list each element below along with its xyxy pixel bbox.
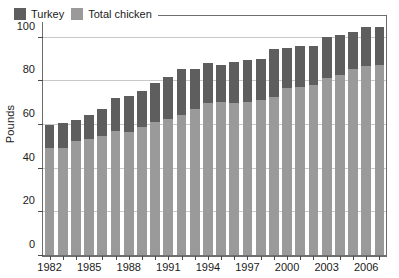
x-axis-tick xyxy=(208,256,209,260)
x-axis-label: 2006 xyxy=(354,261,378,273)
bar-2001 xyxy=(295,16,305,256)
bar-2007 xyxy=(375,16,385,256)
legend-item-turkey: Turkey xyxy=(14,8,64,20)
legend-item-total-chicken: Total chicken xyxy=(71,8,152,20)
bar-segment-turkey xyxy=(190,69,200,108)
bar-1994 xyxy=(203,16,213,256)
bar-segment-turkey xyxy=(375,27,385,65)
bar-segment-turkey xyxy=(361,27,371,66)
x-axis-tick xyxy=(182,256,183,260)
x-axis-tick xyxy=(234,256,235,260)
bar-segment-total-chicken xyxy=(111,131,121,256)
bar-segment-turkey xyxy=(137,91,147,128)
x-axis-tick xyxy=(221,256,222,260)
bar-segment-turkey xyxy=(322,37,332,78)
bar-1990 xyxy=(150,16,160,256)
x-axis-tick xyxy=(76,256,77,260)
bar-segment-total-chicken xyxy=(375,65,385,256)
bar-1988 xyxy=(124,16,134,256)
bar-segment-turkey xyxy=(243,60,253,102)
bar-segment-turkey xyxy=(45,125,55,148)
y-axis-tick xyxy=(38,37,43,38)
bar-segment-turkey xyxy=(97,109,107,136)
bar-segment-total-chicken xyxy=(361,66,371,256)
x-axis-line xyxy=(43,255,386,256)
bar-segment-total-chicken xyxy=(348,69,358,256)
legend-swatch-total-chicken xyxy=(71,8,83,20)
chart-legend: Turkey Total chicken xyxy=(12,6,158,22)
x-axis-label: 1997 xyxy=(235,261,259,273)
y-axis-label: 60 xyxy=(23,107,35,119)
y-axis-title-label: Pounds xyxy=(4,94,16,154)
y-axis-tick xyxy=(38,211,43,212)
y-axis-label: 0 xyxy=(29,238,35,250)
bar-segment-total-chicken xyxy=(190,109,200,256)
bar-segment-total-chicken xyxy=(216,102,226,256)
bar-segment-total-chicken xyxy=(309,85,319,256)
bar-2004 xyxy=(335,16,345,256)
bar-1989 xyxy=(137,16,147,256)
x-axis-tick xyxy=(300,256,301,260)
y-axis-label: 40 xyxy=(23,151,35,163)
bar-1985 xyxy=(84,16,94,256)
bar-2000 xyxy=(282,16,292,256)
bar-1992 xyxy=(177,16,187,256)
bar-1982 xyxy=(45,16,55,256)
x-axis-tick xyxy=(247,256,248,260)
bar-segment-turkey xyxy=(216,65,226,102)
bar-segment-total-chicken xyxy=(150,122,160,256)
x-axis-tick xyxy=(261,256,262,260)
x-axis-tick xyxy=(313,256,314,260)
bar-segment-total-chicken xyxy=(269,97,279,256)
legend-swatch-turkey xyxy=(14,8,26,20)
bar-segment-total-chicken xyxy=(335,75,345,256)
bar-segment-total-chicken xyxy=(256,100,266,256)
bar-segment-turkey xyxy=(269,49,279,97)
x-axis-tick xyxy=(327,256,328,260)
legend-label-total-chicken: Total chicken xyxy=(88,8,152,20)
bar-1986 xyxy=(97,16,107,256)
x-axis-label: 1991 xyxy=(156,261,180,273)
bar-segment-turkey xyxy=(295,46,305,87)
x-axis-label: 1988 xyxy=(117,261,141,273)
bar-segment-total-chicken xyxy=(124,132,134,256)
bar-segment-turkey xyxy=(58,123,68,148)
x-axis-tick xyxy=(142,256,143,260)
x-axis-label: 1982 xyxy=(37,261,61,273)
y-axis-tick xyxy=(38,124,43,125)
bar-segment-total-chicken xyxy=(229,103,239,256)
bar-segment-total-chicken xyxy=(243,102,253,256)
bar-group xyxy=(43,16,386,256)
x-axis-tick xyxy=(102,256,103,260)
bar-segment-turkey xyxy=(256,59,266,100)
x-axis-tick xyxy=(129,256,130,260)
bar-segment-turkey xyxy=(124,96,134,132)
x-axis-tick xyxy=(116,256,117,260)
y-axis-tick xyxy=(38,80,43,81)
bar-2003 xyxy=(322,16,332,256)
x-axis-label: 2003 xyxy=(314,261,338,273)
stacked-bar-chart: Pounds 020406080100 19821985198819911994… xyxy=(0,0,399,278)
x-axis-tick xyxy=(50,256,51,260)
x-axis-label: 2000 xyxy=(275,261,299,273)
bar-segment-total-chicken xyxy=(84,139,94,256)
bar-1995 xyxy=(216,16,226,256)
bar-segment-turkey xyxy=(309,46,319,85)
bar-segment-total-chicken xyxy=(203,103,213,256)
bar-segment-total-chicken xyxy=(295,87,305,256)
y-axis-title: Pounds xyxy=(2,0,18,278)
x-axis-tick xyxy=(366,256,367,260)
bar-2002 xyxy=(309,16,319,256)
x-axis-tick xyxy=(353,256,354,260)
bar-segment-turkey xyxy=(348,32,358,69)
bar-segment-total-chicken xyxy=(45,148,55,256)
bar-1993 xyxy=(190,16,200,256)
bar-1983 xyxy=(58,16,68,256)
x-axis-tick xyxy=(168,256,169,260)
y-axis-label: 80 xyxy=(23,63,35,75)
x-axis-label: 1994 xyxy=(196,261,220,273)
plot-area: 020406080100 198219851988199119941997200… xyxy=(42,15,387,257)
bar-1991 xyxy=(163,16,173,256)
legend-label-turkey: Turkey xyxy=(31,8,64,20)
bar-segment-total-chicken xyxy=(97,136,107,256)
